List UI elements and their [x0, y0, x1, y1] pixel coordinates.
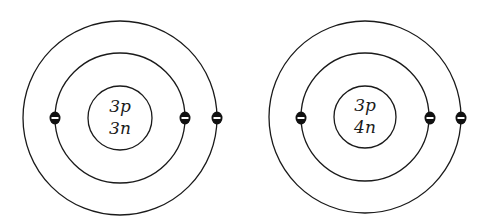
- electron-icon: [296, 112, 307, 125]
- electron-icon: [212, 112, 223, 125]
- neutron-count-label: 4n: [353, 117, 376, 137]
- diagram-canvas: 3p 3n 3p 4n: [0, 0, 484, 219]
- neutron-count-label: 3n: [109, 118, 131, 138]
- electron-icon: [425, 112, 436, 125]
- electron-icon: [180, 112, 191, 125]
- atom-right: 3p 4n: [269, 21, 467, 213]
- proton-count-label: 3p: [109, 96, 131, 116]
- atom-left: 3p 3n: [23, 21, 223, 215]
- electron-icon: [456, 112, 467, 125]
- proton-count-label: 3p: [354, 95, 376, 115]
- electron-icon: [50, 112, 61, 125]
